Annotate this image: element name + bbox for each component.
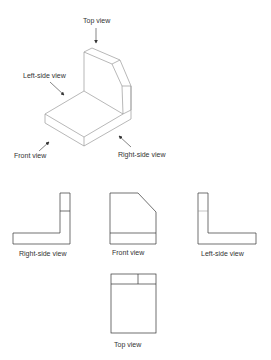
ortho-label-left-side-view: Left-side view (201, 250, 244, 257)
arrow-front-view (39, 142, 49, 151)
iso-label-top-view: Top view (83, 17, 110, 24)
arrow-right-side-view (119, 136, 131, 147)
iso-label-left-side-view: Left-side view (23, 72, 66, 79)
diagram-canvas (0, 0, 271, 360)
ortho-label-right-side-view: Right-side view (19, 250, 66, 257)
left-side-view-drawing (198, 193, 256, 244)
ortho-label-top-view: Top view (114, 341, 141, 348)
iso-label-right-side-view: Right-side view (118, 151, 165, 158)
top-view-drawing (111, 274, 156, 333)
isometric-arrows (39, 28, 131, 151)
ortho-label-front-view: Front view (112, 249, 144, 256)
front-view-drawing (110, 193, 156, 244)
arrow-left-side-view (50, 82, 64, 95)
right-side-view-drawing (13, 193, 70, 244)
isometric-object (45, 48, 131, 146)
iso-label-front-view: Front view (14, 152, 46, 159)
